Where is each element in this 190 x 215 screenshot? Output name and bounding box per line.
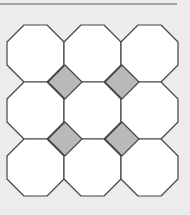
tessellation-diagram <box>0 0 190 215</box>
octagon-tile <box>7 25 64 82</box>
octagon-tile <box>7 139 64 196</box>
octagon-tile <box>7 82 64 139</box>
octagon-grid <box>7 25 178 196</box>
